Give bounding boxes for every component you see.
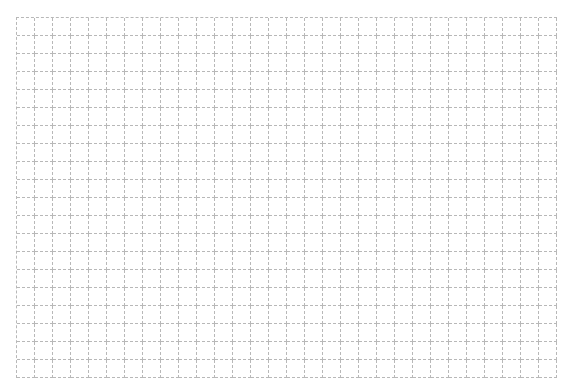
grid-cell bbox=[215, 90, 233, 108]
grid-cell bbox=[179, 162, 197, 180]
grid-cell bbox=[521, 72, 539, 90]
grid-cell bbox=[503, 288, 521, 306]
grid-cell bbox=[215, 36, 233, 54]
grid-cell bbox=[89, 126, 107, 144]
grid-cell bbox=[143, 108, 161, 126]
grid-cell bbox=[359, 288, 377, 306]
grid-cell bbox=[17, 162, 35, 180]
grid-cell bbox=[215, 108, 233, 126]
grid-cell bbox=[539, 180, 557, 198]
grid-cell bbox=[161, 324, 179, 342]
grid-cell bbox=[359, 126, 377, 144]
grid-cell bbox=[467, 288, 485, 306]
grid-cell bbox=[395, 162, 413, 180]
grid-cell bbox=[395, 324, 413, 342]
grid-cell bbox=[449, 288, 467, 306]
grid-cell bbox=[539, 162, 557, 180]
grid-cell bbox=[413, 252, 431, 270]
grid-cell bbox=[197, 18, 215, 36]
grid-cell bbox=[377, 54, 395, 72]
grid-cell bbox=[539, 288, 557, 306]
grid-cell bbox=[449, 324, 467, 342]
grid-cell bbox=[413, 288, 431, 306]
grid-cell bbox=[485, 342, 503, 360]
grid-cell bbox=[485, 216, 503, 234]
grid-cell bbox=[269, 54, 287, 72]
grid-cell bbox=[89, 360, 107, 378]
grid-cell bbox=[71, 360, 89, 378]
grid-cell bbox=[341, 72, 359, 90]
grid-cell bbox=[197, 360, 215, 378]
grid-cell bbox=[323, 18, 341, 36]
grid-cell bbox=[485, 36, 503, 54]
grid-cell bbox=[233, 234, 251, 252]
grid-cell bbox=[503, 90, 521, 108]
grid-cell bbox=[503, 342, 521, 360]
grid-cell bbox=[467, 144, 485, 162]
grid-cell bbox=[143, 90, 161, 108]
grid-cell bbox=[197, 216, 215, 234]
grid-cell bbox=[251, 216, 269, 234]
grid-cell bbox=[305, 108, 323, 126]
grid-cell bbox=[269, 216, 287, 234]
grid-cell bbox=[251, 342, 269, 360]
grid-cell bbox=[215, 360, 233, 378]
grid-cell bbox=[377, 306, 395, 324]
grid-cell bbox=[503, 252, 521, 270]
grid-cell bbox=[323, 324, 341, 342]
grid-cell bbox=[323, 216, 341, 234]
grid-cell bbox=[359, 162, 377, 180]
grid-cell bbox=[161, 18, 179, 36]
grid-cell bbox=[449, 126, 467, 144]
grid-cell bbox=[341, 270, 359, 288]
grid-cell bbox=[161, 90, 179, 108]
grid-cell bbox=[125, 324, 143, 342]
grid-cell bbox=[71, 306, 89, 324]
grid-cell bbox=[125, 126, 143, 144]
grid-cell bbox=[431, 90, 449, 108]
grid-cell bbox=[197, 72, 215, 90]
grid-cell bbox=[125, 18, 143, 36]
grid-cell bbox=[467, 18, 485, 36]
grid-cell bbox=[71, 324, 89, 342]
grid-cell bbox=[53, 252, 71, 270]
grid-cell bbox=[71, 234, 89, 252]
grid-cell bbox=[449, 306, 467, 324]
grid-cell bbox=[107, 54, 125, 72]
grid-cell bbox=[161, 126, 179, 144]
grid-cell bbox=[251, 360, 269, 378]
grid-cell bbox=[395, 342, 413, 360]
grid-cell bbox=[125, 360, 143, 378]
grid-cell bbox=[413, 198, 431, 216]
grid-cell bbox=[215, 324, 233, 342]
grid-cell bbox=[233, 342, 251, 360]
grid-cell bbox=[233, 144, 251, 162]
grid-cell bbox=[503, 360, 521, 378]
grid-cell bbox=[251, 324, 269, 342]
grid-cell bbox=[287, 216, 305, 234]
grid-cell bbox=[431, 198, 449, 216]
grid-cell bbox=[467, 360, 485, 378]
grid-cell bbox=[503, 36, 521, 54]
grid-cell bbox=[539, 36, 557, 54]
grid-cell bbox=[35, 126, 53, 144]
grid-cell bbox=[377, 108, 395, 126]
grid-cell bbox=[71, 90, 89, 108]
grid-cell bbox=[107, 180, 125, 198]
grid-cell bbox=[503, 198, 521, 216]
grid-cell bbox=[161, 252, 179, 270]
grid-cell bbox=[107, 270, 125, 288]
grid-cell bbox=[215, 270, 233, 288]
grid-cell bbox=[143, 198, 161, 216]
grid-cell bbox=[269, 144, 287, 162]
grid-cell bbox=[413, 144, 431, 162]
grid-cell bbox=[89, 180, 107, 198]
grid-cell bbox=[215, 198, 233, 216]
grid-cell bbox=[17, 270, 35, 288]
grid-cell bbox=[179, 108, 197, 126]
grid-cell bbox=[521, 180, 539, 198]
grid-cell bbox=[521, 288, 539, 306]
grid-cell bbox=[377, 162, 395, 180]
grid-cell bbox=[53, 234, 71, 252]
grid-cell bbox=[395, 54, 413, 72]
